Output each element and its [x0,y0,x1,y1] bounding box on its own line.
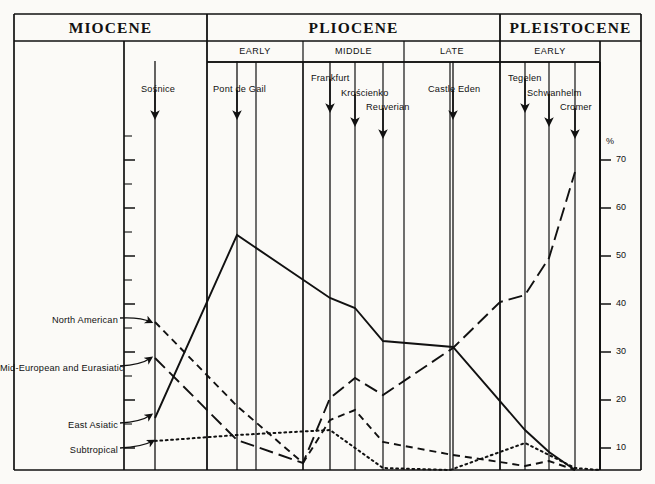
site-label-pont-de-gail: Pont de Gail [213,84,266,94]
stage-label-2: LATE [404,46,500,56]
curve-east-asiatic [155,235,575,470]
y-tick-20: 20 [616,394,626,404]
stage-label-3: EARLY [500,46,600,56]
curve-mid-european-and-eurasiatic [155,172,575,463]
site-label-so-nice: Sośnice [141,84,175,94]
curve-label-subtropical: Subtropical [0,445,118,455]
stage-label-1: MIDDLE [303,46,404,56]
site-label-kro-cienko: Krościenko [341,88,388,98]
curve-label-arrows [120,318,153,448]
epoch-label-pleistocene: PLEISTOCENE [500,19,641,37]
curve-label-mid-european-and-eurasiatic: Mid-European and Eurasiatic [0,363,118,373]
y-tick-40: 40 [616,298,626,308]
paleobotany-chart-figure: MIOCENEPLIOCENEPLEISTOCENE EARLYMIDDLELA… [0,0,655,484]
stage-label-0: EARLY [207,46,303,56]
y-tick-70: 70 [616,154,626,164]
site-label-frankfurt: Frankfurt [311,73,350,83]
site-label-reuverian: Reuverian [366,102,410,112]
site-label-tegelen: Tegelen [508,73,542,83]
percent-unit-label: % [606,136,614,146]
y-tick-30: 30 [616,346,626,356]
epoch-label-pliocene: PLIOCENE [207,19,500,37]
y-tick-50: 50 [616,250,626,260]
y-tick-60: 60 [616,202,626,212]
epoch-label-miocene: MIOCENE [14,19,207,37]
site-label-castle-eden: Castle Eden [428,84,480,94]
site-label-schwanhelm: Schwanhelm [527,88,582,98]
site-label-cromer: Cromer [560,102,592,112]
data-curves [155,172,600,470]
curve-label-north-american: North American [0,315,118,325]
curve-label-east-asiatic: East Asiatic [0,420,118,430]
y-tick-10: 10 [616,442,626,452]
